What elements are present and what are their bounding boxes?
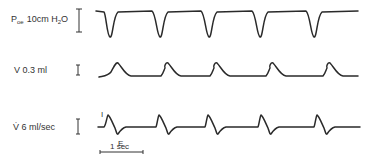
inspiration-marker: I	[101, 110, 103, 119]
vdot-trace	[98, 115, 360, 134]
v-calibration-bar	[76, 65, 80, 75]
poe-label: Poe10cm H2O	[11, 14, 68, 25]
poe-trace	[96, 11, 358, 37]
vdot-calibration-bar	[76, 119, 80, 134]
respiratory-traces-figure: Poe10cm H2O V 0.3 ml V̇ 6 ml/sec I E 1 s…	[0, 0, 370, 158]
v-trace	[99, 63, 358, 77]
vdot-label: V̇ 6 ml/sec	[13, 122, 56, 132]
time-scale-label: 1 sec	[110, 142, 129, 151]
poe-calibration-bar	[76, 9, 82, 32]
v-label: V 0.3 ml	[14, 65, 47, 75]
